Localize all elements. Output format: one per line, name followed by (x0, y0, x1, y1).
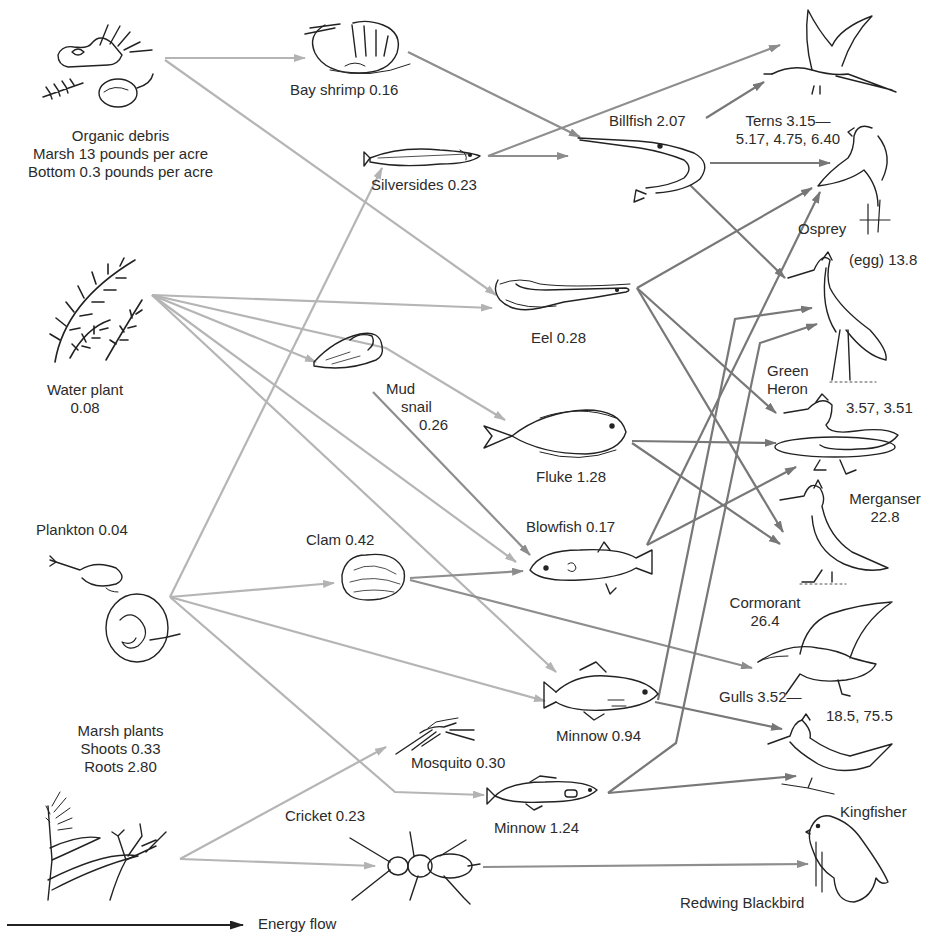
marsh-plants-name: Marsh plants (58, 722, 183, 740)
mud-snail-line2: snail (386, 398, 448, 416)
redwing-blackbird-label: Redwing Blackbird (680, 894, 804, 912)
arrow-blowfish-to-merganser (647, 467, 796, 545)
arrow-clam-to-blowfish (410, 571, 523, 578)
plankton-label: Plankton 0.04 (36, 521, 128, 539)
eel-icon (495, 280, 630, 310)
legend-energy-flow-label: Energy flow (258, 915, 336, 932)
arrow-fluke-to-merganser (632, 441, 776, 443)
minnow-124-label: Minnow 1.24 (494, 819, 579, 837)
mosquito-icon (396, 718, 474, 754)
debris-icon (43, 25, 153, 107)
kingfisher-label: Kingfisher (840, 803, 907, 821)
arrow-plankton-to-minnow094 (170, 597, 545, 701)
billfish-label: Billfish 2.07 (609, 112, 686, 130)
organic-debris-bottom: Bottom 0.3 pounds per acre (8, 163, 233, 181)
minnow-124-icon (487, 776, 597, 810)
cormorant-name: Cormorant (720, 594, 810, 612)
organic-debris-label: Organic debris Marsh 13 pounds per acre … (8, 127, 233, 181)
mud-snail-line1: Mud (386, 380, 448, 398)
arrow-waterplant-to-minnow094 (152, 295, 556, 672)
bay-shrimp-label: Bay shrimp 0.16 (290, 81, 398, 99)
energy-flow-arrows (152, 45, 830, 867)
blowfish-label: Blowfish 0.17 (526, 518, 615, 536)
cricket-label: Cricket 0.23 (285, 807, 365, 825)
marsh-plants-roots: Roots 2.80 (58, 758, 183, 776)
arrow-minnow124-to-kingfisher (608, 776, 796, 793)
water-plant-label: Water plant 0.08 (30, 381, 140, 417)
billfish-icon (578, 138, 705, 202)
clam-icon (342, 554, 405, 600)
arrow-eel-to-osprey (637, 188, 812, 288)
green-heron-label: Green Heron (767, 362, 809, 398)
blowfish-icon (530, 542, 652, 594)
green-heron-line2: Heron (767, 380, 809, 398)
clam-label: Clam 0.42 (306, 531, 374, 549)
cormorant-value: 26.4 (720, 612, 810, 630)
marsh-plants-label: Marsh plants Shoots 0.33 Roots 2.80 (58, 722, 183, 776)
gulls-values: 18.5, 75.5 (826, 707, 893, 725)
osprey-label: Osprey (798, 220, 846, 238)
silversides-icon (364, 149, 480, 166)
osprey-egg-value: (egg) 13.8 (849, 251, 917, 269)
mud-snail-label: Mud snail 0.26 (386, 380, 448, 434)
mud-snail-value: 0.26 (386, 416, 448, 434)
cormorant-label: Cormorant 26.4 (720, 594, 810, 630)
merganser-label: Merganser 22.8 (845, 490, 925, 526)
silversides-label: Silversides 0.23 (371, 176, 477, 194)
arrow-marsh-to-mosquito (180, 747, 386, 859)
plankton-icon (50, 556, 180, 662)
merganser-name: Merganser (845, 490, 925, 508)
arrow-shrimp-to-billfish (408, 52, 580, 137)
fluke-label: Fluke 1.28 (536, 468, 606, 486)
terns-name: Terns 3.15— (718, 112, 858, 130)
gulls-name: Gulls 3.52— (719, 688, 802, 706)
organic-debris-name: Organic debris (8, 127, 233, 145)
minnow-094-icon (544, 662, 658, 720)
arrow-marsh-to-cricket (180, 859, 375, 866)
tern-icon (764, 10, 896, 94)
arrow-plankton-to-clam (170, 583, 334, 597)
blackbird-icon (806, 816, 888, 902)
marsh-plant-icon (46, 792, 166, 900)
snail-icon (314, 333, 382, 368)
arrow-waterplant-to-fluke (152, 295, 505, 420)
minnow-094-label: Minnow 0.94 (556, 727, 641, 745)
organic-debris-marsh: Marsh 13 pounds per acre (8, 145, 233, 163)
water-plant-icon (50, 258, 142, 362)
green-heron-value: 3.57, 3.51 (846, 399, 913, 417)
flatfish-icon (484, 410, 626, 458)
eel-label: Eel 0.28 (531, 329, 586, 347)
cricket-icon (350, 832, 480, 904)
kingfisher-icon (768, 714, 892, 794)
mosquito-label: Mosquito 0.30 (411, 754, 505, 772)
merganser-value: 22.8 (845, 508, 925, 526)
arrow-eel-to-merganser (637, 288, 776, 413)
shrimp-icon (305, 21, 410, 73)
terns-values: 5.17, 4.75, 6.40 (718, 130, 858, 148)
marsh-plants-shoots: Shoots 0.33 (58, 740, 183, 758)
water-plant-name: Water plant (30, 381, 140, 399)
green-heron-line1: Green (767, 362, 809, 380)
arrow-minnow094-to-kingfisher (655, 702, 782, 729)
water-plant-value: 0.08 (30, 399, 140, 417)
terns-label: Terns 3.15— 5.17, 4.75, 6.40 (718, 112, 858, 148)
arrow-cricket-to-blackbird (483, 864, 808, 867)
